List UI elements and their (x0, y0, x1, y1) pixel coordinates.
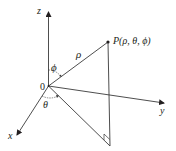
phi-label: ϕ (51, 62, 57, 73)
spherical-coordinates-diagram: z x y 0 P(ρ, θ, ϕ) ρ ϕ θ (0, 0, 176, 151)
x-axis-label: x (8, 131, 12, 141)
right-angle-marker (104, 134, 110, 140)
rho-label: ρ (76, 49, 81, 60)
origin-label: 0 (40, 82, 45, 92)
theta-arc (42, 96, 58, 98)
y-axis (49, 86, 165, 103)
projection-segment (49, 86, 111, 146)
diagram-canvas (0, 0, 176, 151)
origin-dot (48, 85, 50, 87)
point-p-label: P(ρ, θ, ϕ) (113, 36, 151, 46)
x-axis (17, 86, 49, 135)
vertical-drop (108, 42, 110, 146)
point-p-dot (106, 40, 109, 43)
z-axis-label: z (37, 6, 41, 16)
y-axis-label: y (160, 106, 164, 116)
theta-label: θ (43, 100, 48, 110)
